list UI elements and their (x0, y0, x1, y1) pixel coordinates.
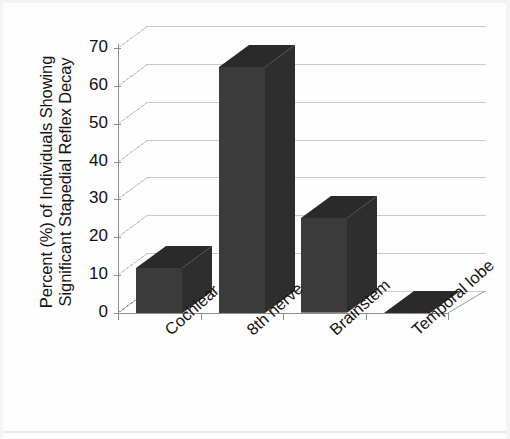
bar-chart: Percent (%) of Individuals Showing Signi… (0, 0, 510, 439)
y-tick-mark-70 (114, 48, 121, 49)
plot-area: 010203040506070 Cochlear8th nerveBrainst… (0, 0, 510, 439)
y-tick-mark-50 (114, 124, 121, 125)
y-axis-tick-label: 10 (64, 264, 108, 284)
y-axis-tick-label: 30 (64, 188, 108, 208)
y-axis-tick-label: 50 (64, 113, 108, 133)
y-axis-tick-label: 40 (64, 151, 108, 171)
x-tick-mark-0 (118, 313, 119, 320)
y-tick-mark-30 (114, 199, 121, 200)
y-tick-mark-10 (114, 275, 121, 276)
y-tick-mark-60 (114, 86, 121, 87)
y-axis-tick-label: 20 (64, 226, 108, 246)
y-tick-mark-20 (114, 237, 121, 238)
y-axis-tick-label: 0 (64, 302, 108, 322)
y-axis-tick-label: 60 (64, 75, 108, 95)
y-tick-mark-40 (114, 162, 121, 163)
y-axis-line (118, 44, 119, 314)
y-axis-tick-label: 70 (64, 37, 108, 57)
